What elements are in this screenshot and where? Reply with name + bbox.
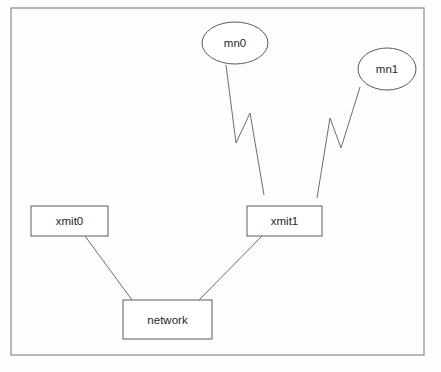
wired-link-line [85, 236, 132, 300]
node-mn1-label: mn1 [376, 63, 398, 75]
edge-mn1-xmit1 [317, 87, 360, 198]
wireless-link-zigzag [317, 87, 360, 198]
node-mn0-label: mn0 [224, 37, 246, 49]
diagram-canvas: mn0 mn1 xmit0 xmit1 network [0, 0, 441, 372]
edge-xmit0-network [85, 236, 132, 300]
node-xmit0-label: xmit0 [56, 215, 83, 227]
node-xmit0[interactable]: xmit0 [31, 206, 108, 236]
node-xmit1-label: xmit1 [271, 215, 298, 227]
node-mn0[interactable]: mn0 [202, 22, 268, 64]
node-network[interactable]: network [123, 300, 212, 339]
node-mn1[interactable]: mn1 [358, 48, 416, 90]
diagram-root: mn0 mn1 xmit0 xmit1 network [0, 0, 441, 372]
wired-link-line [199, 236, 262, 300]
wireless-link-zigzag [226, 65, 264, 195]
edge-xmit1-network [199, 236, 262, 300]
edge-mn0-xmit1 [226, 65, 264, 195]
node-network-label: network [147, 314, 188, 326]
node-xmit1[interactable]: xmit1 [247, 206, 322, 236]
